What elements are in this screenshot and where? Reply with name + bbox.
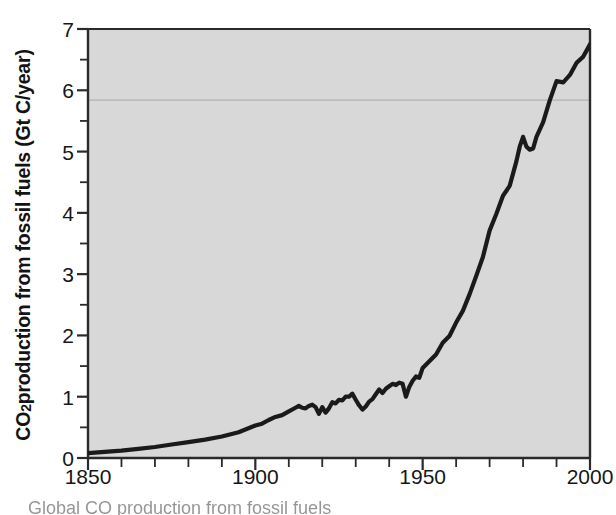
x-tick-label: 1850 bbox=[65, 466, 112, 487]
co2-production-chart-figure: CO2 production from fossil fuels (Gt C/y… bbox=[0, 0, 616, 515]
y-axis-ticks bbox=[77, 29, 88, 458]
plot-area bbox=[0, 0, 616, 515]
page-caption-fragment: Global CO production from fossil fuels bbox=[0, 501, 616, 515]
x-tick-label: 1900 bbox=[232, 466, 279, 487]
caption-text: Global CO production from fossil fuels bbox=[28, 501, 616, 515]
plot-background bbox=[88, 29, 590, 458]
x-axis-tick-labels: 1850190019502000 bbox=[0, 466, 616, 500]
x-tick-label: 1950 bbox=[399, 466, 446, 487]
x-tick-label: 2000 bbox=[567, 466, 614, 487]
